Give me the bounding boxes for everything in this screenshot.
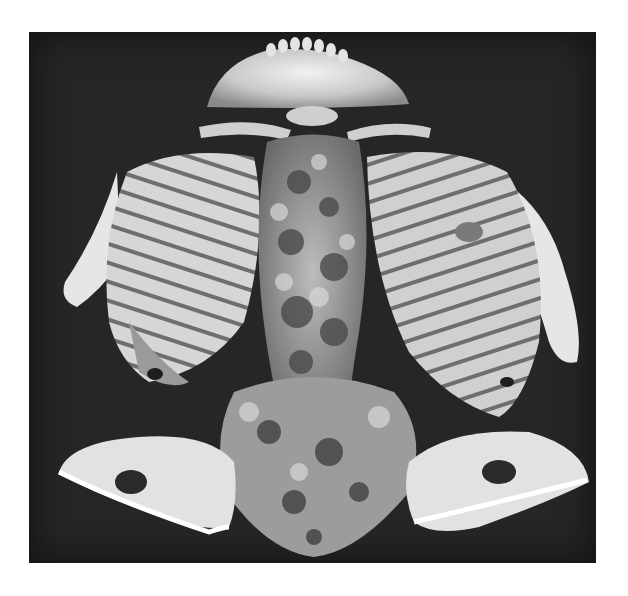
right-iliac-wing xyxy=(406,431,589,531)
mandible xyxy=(207,37,409,126)
skeleton-rendering xyxy=(29,32,596,563)
left-iliac-wing xyxy=(59,436,236,532)
right-ribcage xyxy=(367,152,579,417)
pelvis xyxy=(220,377,416,557)
ct-rendering-frame xyxy=(29,32,596,563)
left-ribcage xyxy=(64,153,260,385)
spine xyxy=(258,135,366,413)
